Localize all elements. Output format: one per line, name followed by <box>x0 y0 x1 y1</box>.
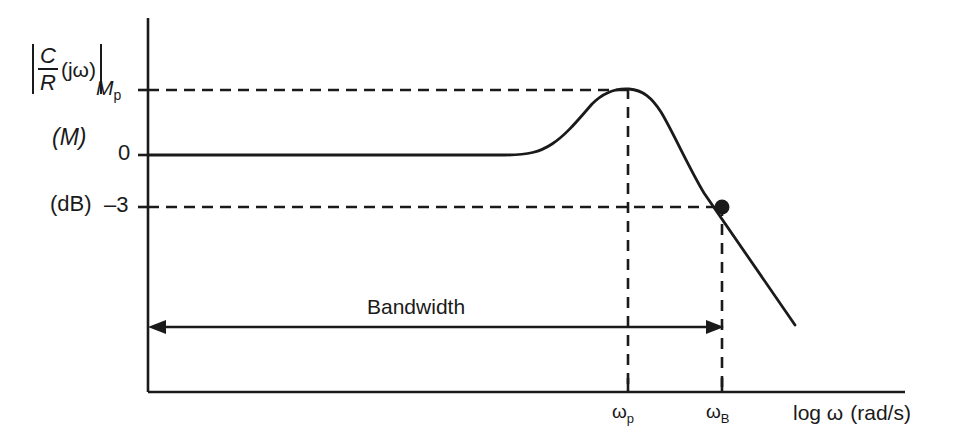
y-tick-label-minus3: –3 <box>104 194 128 216</box>
fraction-denominator: R <box>38 71 58 94</box>
bandwidth-point-marker <box>715 200 730 215</box>
x-tick-label-omega-b-sub: B <box>721 411 730 426</box>
x-tick-label-omega-b-base: ω <box>706 401 721 422</box>
x-tick-label-omega-p: ωp <box>612 402 634 425</box>
y-axis-db-units: (dB) <box>50 193 92 215</box>
bandwidth-arrow-head-left <box>148 320 166 334</box>
y-axis-magnitude-units: (M) <box>52 126 86 149</box>
bandwidth-label: Bandwidth <box>367 296 465 317</box>
magnitude-units-text: (M) <box>52 124 86 150</box>
jomega-argument: (jω) <box>61 59 96 80</box>
y-axis-label: C R (jω) <box>28 44 106 94</box>
frequency-response-figure: C R (jω) (M) (dB) Mp 0 –3 Bandwidth ωp ω… <box>0 0 953 448</box>
x-tick-label-omega-p-base: ω <box>612 401 627 422</box>
plot-canvas <box>0 0 953 448</box>
y-tick-label-mp: Mp <box>96 77 121 102</box>
x-tick-label-omega-p-sub: p <box>627 411 634 426</box>
fraction-numerator: C <box>38 44 58 67</box>
abs-bar-left <box>32 44 34 94</box>
y-tick-label-mp-base: M <box>96 76 114 99</box>
x-axis-label-text: log ω <box>793 401 843 424</box>
y-tick-label-mp-sub: p <box>114 87 122 103</box>
bandwidth-arrow <box>148 320 724 334</box>
x-axis-label: log ω(rad/s) <box>793 402 911 423</box>
x-axis-label-units: (rad/s) <box>850 401 911 424</box>
transfer-function-fraction: C R <box>38 44 58 94</box>
x-tick-label-omega-b: ωB <box>706 402 730 425</box>
y-tick-label-zero: 0 <box>118 142 130 164</box>
